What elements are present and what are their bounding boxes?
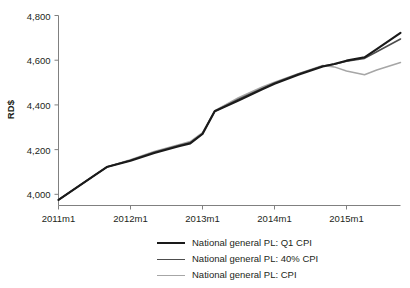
- y-axis-tick-label: 4,800: [3, 10, 51, 21]
- y-axis-tick-label: 4,400: [3, 99, 51, 110]
- y-axis-tick-label: 4,600: [3, 55, 51, 66]
- series-line: [59, 33, 401, 200]
- y-axis-tick-label: 4,000: [3, 189, 51, 200]
- x-axis-tick-label: 2012m1: [113, 213, 147, 224]
- x-axis-tick-label: 2011m1: [42, 213, 76, 224]
- legend-item: National general PL: 40% CPI: [157, 252, 318, 266]
- legend-label: National general PL: CPI: [192, 270, 297, 280]
- legend-label: National general PL: Q1 CPI: [192, 238, 312, 248]
- y-axis-tick-label: 4,200: [3, 144, 51, 155]
- legend-label: National general PL: 40% CPI: [192, 254, 318, 264]
- series-line: [59, 62, 401, 199]
- legend-swatch: [157, 242, 185, 244]
- x-axis-tick-label: 2013m1: [185, 213, 219, 224]
- legend-item: National general PL: Q1 CPI: [157, 236, 318, 250]
- legend-item: National general PL: CPI: [157, 268, 318, 282]
- chart-figure: RD$ 4,0004,2004,4004,6004,800 2011m12012…: [0, 0, 410, 288]
- chart-legend: National general PL: Q1 CPINational gene…: [157, 236, 318, 282]
- x-axis-tick-label: 2014m1: [257, 213, 291, 224]
- series-line: [59, 39, 401, 200]
- x-axis-tick-label: 2015m1: [329, 213, 363, 224]
- legend-swatch: [157, 259, 185, 260]
- legend-swatch: [157, 275, 185, 276]
